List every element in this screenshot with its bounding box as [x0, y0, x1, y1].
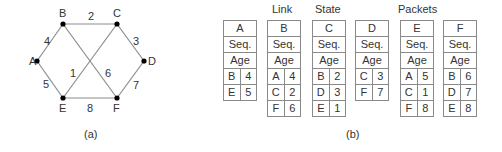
edge-weight: 4	[44, 35, 50, 47]
edge-c-d	[117, 24, 144, 61]
neighbor-id: F	[268, 101, 285, 117]
neighbor-cost: 2	[284, 85, 300, 101]
node-label: A	[29, 55, 37, 67]
neighbor-cost: 6	[284, 101, 300, 117]
neighbor-cost: 4	[240, 69, 256, 85]
packet-table-a: ASeq.AgeB4E5	[223, 20, 257, 101]
neighbor-id: D	[313, 85, 330, 101]
header-state: State	[315, 3, 341, 15]
neighbor-id: B	[313, 69, 330, 85]
packet-seq: Seq.	[268, 37, 301, 53]
edge-weight: 8	[87, 102, 93, 114]
neighbor-row: C2	[268, 85, 301, 101]
neighbor-id: C	[356, 69, 373, 85]
edge-a-e	[37, 61, 63, 98]
neighbor-row: C3	[356, 69, 389, 85]
neighbor-id: C	[401, 85, 418, 101]
caption-a: (a)	[84, 128, 97, 140]
neighbor-cost: 1	[329, 101, 345, 117]
neighbor-row: D3	[313, 85, 346, 101]
neighbor-cost: 4	[284, 69, 300, 85]
edge-weight: 5	[43, 78, 49, 90]
neighbor-cost: 7	[372, 85, 388, 101]
neighbor-id: B	[224, 69, 241, 85]
packet-seq: Seq.	[444, 37, 477, 53]
packet-age: Age	[401, 53, 434, 69]
packet-table-d: DSeq.AgeC3F7	[355, 20, 389, 101]
neighbor-id: F	[401, 101, 418, 117]
node-label: E	[59, 102, 66, 114]
neighbor-row: E1	[313, 101, 346, 117]
header-packets: Packets	[398, 3, 437, 15]
neighbor-id: A	[401, 69, 418, 85]
packet-router: E	[401, 21, 434, 37]
packet-router: F	[444, 21, 477, 37]
neighbor-row: C1	[401, 85, 434, 101]
neighbor-row: D7	[444, 85, 477, 101]
packet-table-b: BSeq.AgeA4C2F6	[267, 20, 301, 117]
packet-router: B	[268, 21, 301, 37]
node-label: C	[113, 7, 121, 19]
neighbor-cost: 8	[460, 101, 476, 117]
neighbor-cost: 8	[417, 101, 433, 117]
edge-weight: 1	[70, 67, 76, 79]
header-link: Link	[272, 3, 292, 15]
neighbor-cost: 1	[417, 85, 433, 101]
packet-router: D	[356, 21, 389, 37]
packet-seq: Seq.	[313, 37, 346, 53]
neighbor-row: A5	[401, 69, 434, 85]
packet-age: Age	[444, 53, 477, 69]
node-label: B	[59, 7, 66, 19]
neighbor-id: F	[356, 85, 373, 101]
edge-weight: 3	[133, 35, 139, 47]
neighbor-cost: 3	[372, 69, 388, 85]
neighbor-row: A4	[268, 69, 301, 85]
packet-age: Age	[356, 53, 389, 69]
node-e	[60, 95, 65, 100]
node-label: F	[113, 102, 120, 114]
neighbor-row: F7	[356, 85, 389, 101]
packet-age: Age	[268, 53, 301, 69]
packet-age: Age	[313, 53, 346, 69]
edge-d-f	[117, 61, 144, 98]
packet-seq: Seq.	[356, 37, 389, 53]
neighbor-cost: 6	[460, 69, 476, 85]
packet-seq: Seq.	[224, 37, 257, 53]
neighbor-row: B4	[224, 69, 257, 85]
neighbor-id: B	[444, 69, 461, 85]
packet-table-c: CSeq.AgeB2D3E1	[312, 20, 346, 117]
packet-table-e: ESeq.AgeA5C1F8	[400, 20, 434, 117]
edge-weight: 2	[88, 10, 94, 22]
neighbor-id: E	[313, 101, 330, 117]
edge-weight: 6	[105, 67, 111, 79]
neighbor-id: E	[444, 101, 461, 117]
neighbor-row: B6	[444, 69, 477, 85]
node-f	[114, 95, 119, 100]
node-label: D	[148, 55, 156, 67]
edge-weight: 7	[133, 79, 139, 91]
neighbor-cost: 5	[417, 69, 433, 85]
node-b	[60, 21, 65, 26]
packet-router: A	[224, 21, 257, 37]
neighbor-row: E8	[444, 101, 477, 117]
neighbor-cost: 7	[460, 85, 476, 101]
neighbor-row: E5	[224, 85, 257, 101]
packet-seq: Seq.	[401, 37, 434, 53]
neighbor-id: C	[268, 85, 285, 101]
neighbor-id: A	[268, 69, 285, 85]
neighbor-row: F8	[401, 101, 434, 117]
neighbor-row: F6	[268, 101, 301, 117]
neighbor-cost: 2	[329, 69, 345, 85]
neighbor-cost: 3	[329, 85, 345, 101]
packet-router: C	[313, 21, 346, 37]
packet-table-f: FSeq.AgeB6D7E8	[443, 20, 477, 117]
neighbor-cost: 5	[240, 85, 256, 101]
network-graph: 42358716ABCDEF	[0, 0, 180, 125]
node-d	[141, 58, 146, 63]
packet-age: Age	[224, 53, 257, 69]
neighbor-row: B2	[313, 69, 346, 85]
node-c	[114, 21, 119, 26]
caption-b: (b)	[346, 128, 359, 140]
neighbor-id: E	[224, 85, 241, 101]
neighbor-id: D	[444, 85, 461, 101]
